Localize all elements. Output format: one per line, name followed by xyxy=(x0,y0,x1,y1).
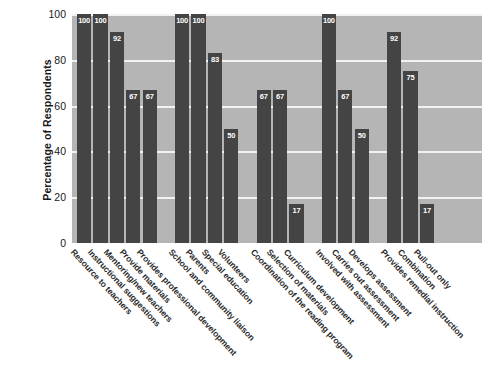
bar-value-label: 92 xyxy=(110,34,124,43)
bar: 17 xyxy=(420,204,434,243)
bar-value-label: 92 xyxy=(387,34,401,43)
bar: 100 xyxy=(93,14,107,243)
y-axis-ticks: 100 80 60 40 20 0 xyxy=(36,14,66,243)
bar: 67 xyxy=(273,90,287,243)
bar: 67 xyxy=(143,90,157,243)
bar: 83 xyxy=(208,53,222,243)
bar-value-label: 67 xyxy=(273,92,287,101)
caption-strip xyxy=(0,377,501,389)
bar-value-label: 100 xyxy=(322,16,336,25)
bar-value-label: 100 xyxy=(93,16,107,25)
bar: 75 xyxy=(403,71,417,243)
y-tick-label: 80 xyxy=(40,54,66,66)
bar-value-label: 50 xyxy=(355,131,369,140)
bar: 92 xyxy=(110,32,124,243)
bar-value-label: 67 xyxy=(126,92,140,101)
plot-area: 1001009267671001008350676717100675092751… xyxy=(72,14,482,243)
bar: 100 xyxy=(77,14,91,243)
bar-value-label: 100 xyxy=(175,16,189,25)
bar: 50 xyxy=(355,129,369,244)
bar-value-label: 67 xyxy=(257,92,271,101)
bar-value-label: 83 xyxy=(208,55,222,64)
bar-value-label: 67 xyxy=(338,92,352,101)
bars-layer: 1001009267671001008350676717100675092751… xyxy=(72,14,482,243)
y-tick-label: 60 xyxy=(40,100,66,112)
y-tick-label: 100 xyxy=(40,8,66,20)
bar-value-label: 100 xyxy=(191,16,205,25)
x-axis-labels: Resource to teachersInstructional sugges… xyxy=(0,243,501,389)
bar-value-label: 75 xyxy=(403,73,417,82)
bar: 92 xyxy=(387,32,401,243)
bar: 67 xyxy=(257,90,271,243)
y-tick-label: 20 xyxy=(40,191,66,203)
bar: 17 xyxy=(289,204,303,243)
bar-value-label: 67 xyxy=(143,92,157,101)
bar: 67 xyxy=(338,90,352,243)
bar-value-label: 100 xyxy=(77,16,91,25)
bar: 67 xyxy=(126,90,140,243)
y-tick-label: 40 xyxy=(40,145,66,157)
bar: 100 xyxy=(175,14,189,243)
figure-root: Percentage of Respondents 100 80 60 40 2… xyxy=(0,0,501,389)
bar-value-label: 17 xyxy=(289,206,303,215)
bar: 50 xyxy=(224,129,238,244)
bar: 100 xyxy=(322,14,336,243)
bar-value-label: 50 xyxy=(224,131,238,140)
bar-value-label: 17 xyxy=(420,206,434,215)
bar: 100 xyxy=(191,14,205,243)
